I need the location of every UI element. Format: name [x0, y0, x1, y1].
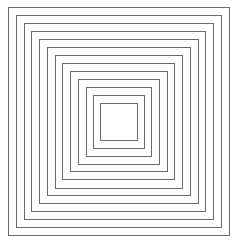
square-13 — [100, 103, 138, 141]
concentric-squares-figure — [0, 0, 237, 240]
